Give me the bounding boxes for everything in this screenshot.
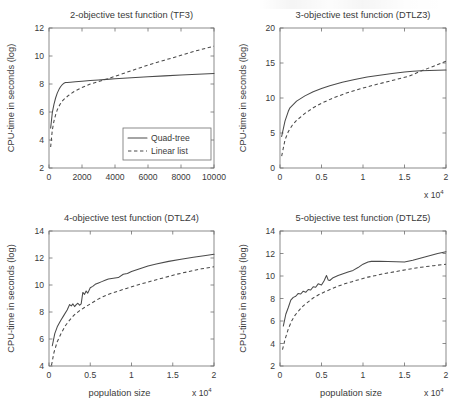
chart-title-tf3: 2-objective test function (TF3) — [70, 10, 193, 20]
x-axis-label-dtlz5: population size — [320, 388, 382, 398]
x-axis-exponent-power-dtlz5: 4 — [440, 387, 444, 393]
y-tick-label-dtlz5-6: 14 — [265, 226, 275, 236]
figure-canvas: 2-objective test function (TF3)020004000… — [0, 0, 465, 406]
chart-title-dtlz5: 5-objective test function (DTLZ5) — [296, 213, 431, 223]
series-dtlz4-0 — [52, 254, 214, 346]
x-tick-label-dtlz3-4: 2 — [444, 172, 449, 182]
y-axis-label-dtlz5: CPU-time in seconds (log) — [238, 244, 248, 353]
x-tick-label-dtlz5-0: 0 — [278, 370, 283, 380]
x-axis-exponent-dtlz5: x 104 — [424, 387, 444, 398]
x-tick-label-dtlz4-2: 1 — [129, 370, 134, 380]
x-tick-label-tf3-4: 8000 — [171, 172, 190, 182]
y-tick-label-dtlz5-5: 12 — [265, 249, 275, 259]
x-tick-label-dtlz5-3: 1.5 — [399, 370, 411, 380]
y-tick-label-dtlz3-2: 10 — [265, 93, 275, 103]
y-tick-label-tf3-3: 8 — [39, 79, 44, 89]
x-axis-label-dtlz4: population size — [88, 388, 150, 398]
series-tf3-0 — [51, 74, 214, 129]
series-dtlz4-1 — [51, 267, 214, 366]
panel-tf3: 2-objective test function (TF3)020004000… — [0, 0, 232, 203]
x-tick-label-dtlz4-3: 1.5 — [167, 370, 179, 380]
y-tick-label-dtlz5-2: 6 — [270, 316, 275, 326]
y-axis-label-dtlz3: CPU-time in seconds (log) — [238, 44, 248, 153]
y-tick-label-dtlz3-0: 0 — [270, 163, 275, 173]
axis-frame-dtlz4 — [49, 231, 214, 366]
x-tick-label-tf3-0: 0 — [47, 172, 52, 182]
axis-frame-dtlz5 — [280, 231, 446, 366]
x-tick-label-dtlz4-0: 0 — [47, 370, 52, 380]
y-tick-label-tf3-1: 4 — [39, 135, 44, 145]
y-tick-label-dtlz4-2: 8 — [39, 307, 44, 317]
y-tick-label-tf3-4: 10 — [34, 51, 44, 61]
y-tick-label-dtlz4-5: 14 — [34, 226, 44, 236]
y-tick-label-dtlz4-1: 6 — [39, 334, 44, 344]
y-tick-label-dtlz4-3: 10 — [34, 280, 44, 290]
panel-dtlz5: 5-objective test function (DTLZ5)00.511.… — [232, 203, 465, 406]
chart-title-dtlz4: 4-objective test function (DTLZ4) — [64, 213, 199, 223]
x-tick-label-tf3-5: 10000 — [202, 172, 226, 182]
legend-label-0: Quad-tree — [151, 133, 190, 143]
x-tick-label-tf3-1: 2000 — [72, 172, 91, 182]
chart-dtlz5: 5-objective test function (DTLZ5)00.511.… — [232, 203, 465, 406]
chart-tf3: 2-objective test function (TF3)020004000… — [0, 0, 232, 203]
y-axis-label-dtlz4: CPU-time in seconds (log) — [6, 244, 16, 353]
y-tick-label-dtlz4-4: 12 — [34, 253, 44, 263]
x-axis-exponent-power-dtlz3: 4 — [440, 189, 444, 195]
legend-label-1: Linear list — [151, 146, 188, 156]
y-tick-label-dtlz3-3: 15 — [265, 58, 275, 68]
x-tick-label-tf3-3: 6000 — [138, 172, 157, 182]
x-axis-exponent-power-dtlz4: 4 — [208, 387, 212, 393]
x-tick-label-tf3-2: 4000 — [105, 172, 124, 182]
y-tick-label-dtlz5-4: 10 — [265, 271, 275, 281]
y-tick-label-tf3-2: 6 — [39, 107, 44, 117]
x-axis-exponent-dtlz3: x 104 — [424, 189, 444, 200]
panel-dtlz3: 3-objective test function (DTLZ3)00.511.… — [232, 0, 465, 203]
x-tick-label-dtlz5-4: 2 — [444, 370, 449, 380]
chart-title-dtlz3: 3-objective test function (DTLZ3) — [296, 10, 431, 20]
series-dtlz5-0 — [283, 252, 446, 326]
x-axis-exponent-dtlz4: x 104 — [192, 387, 212, 398]
y-tick-label-dtlz5-3: 8 — [270, 294, 275, 304]
x-tick-label-dtlz3-1: 0.5 — [316, 172, 328, 182]
y-tick-label-tf3-0: 2 — [39, 163, 44, 173]
x-tick-label-dtlz4-4: 2 — [212, 370, 217, 380]
y-tick-label-dtlz4-0: 4 — [39, 361, 44, 371]
y-tick-label-dtlz3-1: 5 — [270, 128, 275, 138]
x-tick-label-dtlz5-2: 1 — [361, 370, 366, 380]
chart-dtlz3: 3-objective test function (DTLZ3)00.511.… — [232, 0, 465, 203]
y-axis-label-tf3: CPU-time in seconds (log) — [6, 44, 16, 153]
panel-dtlz4: 4-objective test function (DTLZ4)00.511.… — [0, 203, 232, 406]
series-dtlz3-1 — [282, 61, 446, 156]
x-tick-label-dtlz5-1: 0.5 — [316, 370, 328, 380]
y-tick-label-dtlz5-0: 2 — [270, 361, 275, 371]
series-dtlz3-0 — [282, 70, 446, 137]
x-tick-label-dtlz3-0: 0 — [278, 172, 283, 182]
y-tick-label-dtlz3-4: 20 — [265, 23, 275, 33]
x-tick-label-dtlz3-3: 1.5 — [399, 172, 411, 182]
y-tick-label-dtlz5-1: 4 — [270, 339, 275, 349]
chart-dtlz4: 4-objective test function (DTLZ4)00.511.… — [0, 203, 232, 406]
axis-frame-dtlz3 — [280, 28, 446, 168]
series-dtlz5-1 — [282, 264, 446, 350]
x-tick-label-dtlz3-2: 1 — [361, 172, 366, 182]
x-tick-label-dtlz4-1: 0.5 — [84, 370, 96, 380]
y-tick-label-tf3-5: 12 — [34, 23, 44, 33]
